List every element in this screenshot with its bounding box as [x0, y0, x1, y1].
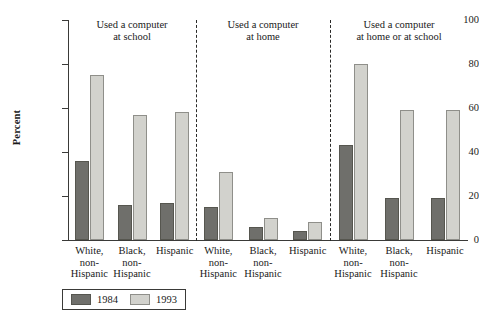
bar-p1-c3-1984 [160, 203, 174, 240]
y-tick-60 [62, 108, 68, 109]
bar-p2-c2-1993 [264, 218, 278, 240]
bar-p2-c1-1984 [204, 207, 218, 240]
y-axis-title: Percent [11, 93, 22, 163]
x-category-line3: Hispanic [107, 268, 158, 280]
y-tick-80 [62, 64, 68, 65]
bar-p3-c1-1993 [354, 64, 368, 240]
panel-title-line2: at school [68, 31, 196, 43]
panel-separator-2 [330, 20, 331, 241]
legend-label-1993: 1993 [156, 294, 177, 305]
chart-legend: 1984 1993 [62, 289, 186, 310]
bar-p3-c1-1984 [339, 145, 353, 240]
bar-p2-c1-1993 [219, 172, 233, 240]
panel-title-line1: Used a computer [196, 19, 330, 31]
panel-title-line2: at home [196, 31, 330, 43]
bar-p3-c2-1984 [385, 198, 399, 240]
panel-title-3: Used a computerat home or at school [330, 19, 468, 43]
panel-separator-1 [196, 20, 197, 241]
bar-p3-c3-1993 [446, 110, 460, 240]
x-category-line2: non- [107, 257, 158, 269]
bar-p1-c2-1993 [133, 115, 147, 240]
y-tick-40 [62, 152, 68, 153]
panel-title-1: Used a computerat school [68, 19, 196, 43]
legend-swatch-1984 [71, 294, 91, 305]
x-category-line2: non- [372, 257, 426, 269]
y-tick-20 [62, 196, 68, 197]
panel-title-line1: Used a computer [68, 19, 196, 31]
legend-swatch-1993 [130, 294, 150, 305]
bar-p1-c1-1993 [90, 75, 104, 240]
panel-title-line1: Used a computer [330, 19, 468, 31]
panel-title-2: Used a computerat home [196, 19, 330, 43]
grouped-bar-chart: Percent 020406080100 Used a computerat s… [0, 0, 479, 325]
y-axis-title-wrap: Percent [8, 96, 24, 166]
legend-label-1984: 1984 [97, 294, 118, 305]
y-axis-line [68, 20, 69, 241]
bar-p3-c3-1984 [431, 198, 445, 240]
legend-item-1993: 1993 [130, 294, 177, 305]
y-tick-0 [62, 240, 68, 241]
bar-p2-c3-1993 [308, 222, 322, 240]
bar-p2-c3-1984 [293, 231, 307, 240]
bar-p2-c2-1984 [249, 227, 263, 240]
x-category-line3: Hispanic [372, 268, 426, 280]
x-axis-line [68, 240, 468, 241]
bar-p1-c2-1984 [118, 205, 132, 240]
x-category-p3-3: Hispanic [418, 245, 472, 257]
panel-title-line2: at home or at school [330, 31, 468, 43]
x-category-line2: non- [237, 257, 290, 269]
bar-p3-c2-1993 [400, 110, 414, 240]
bar-p1-c1-1984 [75, 161, 89, 240]
x-category-line1: Hispanic [418, 245, 472, 257]
legend-item-1984: 1984 [71, 294, 118, 305]
x-category-line3: Hispanic [237, 268, 290, 280]
bar-p1-c3-1993 [175, 112, 189, 240]
y-tick-label-80: 80 [421, 59, 479, 69]
